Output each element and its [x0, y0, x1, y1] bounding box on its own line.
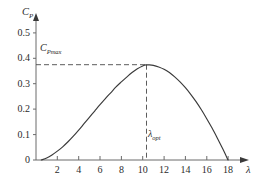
y-axis-label: CP — [22, 7, 33, 20]
x-tick-label-18: 18 — [218, 165, 238, 175]
x-tick-label-2: 2 — [47, 165, 67, 175]
x-tick-label-6: 6 — [90, 165, 110, 175]
chart-figure: CP λ 0 0.1 0.2 0.3 0.4 0.5 2 4 6 8 10 12… — [0, 0, 264, 184]
lambda-opt-annotation: λopt — [148, 129, 161, 142]
x-tick-label-12: 12 — [154, 165, 174, 175]
lambda-opt-annotation-sub: opt — [152, 134, 160, 141]
x-tick-label-16: 16 — [197, 165, 217, 175]
y-axis-label-sub: P — [29, 12, 33, 20]
y-tick-label-5: 0.5 — [4, 28, 30, 38]
y-tick-label-2: 0.2 — [4, 104, 30, 114]
x-axis-arrowhead — [240, 157, 249, 163]
cp-max-annotation-sub: Pmax — [47, 48, 62, 55]
x-tick-label-4: 4 — [69, 165, 89, 175]
y-axis-label-main: C — [22, 6, 29, 17]
power-coefficient-plot — [0, 0, 264, 184]
x-tick-label-8: 8 — [111, 165, 131, 175]
data-curve — [41, 65, 228, 160]
y-tick-label-0: 0 — [4, 155, 30, 165]
x-tick-label-14: 14 — [175, 165, 195, 175]
x-tick-label-10: 10 — [133, 165, 153, 175]
y-axis-arrowhead — [33, 13, 39, 21]
x-axis-ticks — [57, 156, 228, 160]
x-axis-label: λ — [246, 165, 251, 176]
y-tick-label-4: 0.4 — [4, 53, 30, 63]
cp-max-annotation-main: C — [40, 42, 47, 53]
y-tick-label-3: 0.3 — [4, 79, 30, 89]
cp-max-annotation: CPmax — [40, 43, 61, 56]
y-tick-label-1: 0.1 — [4, 130, 30, 140]
